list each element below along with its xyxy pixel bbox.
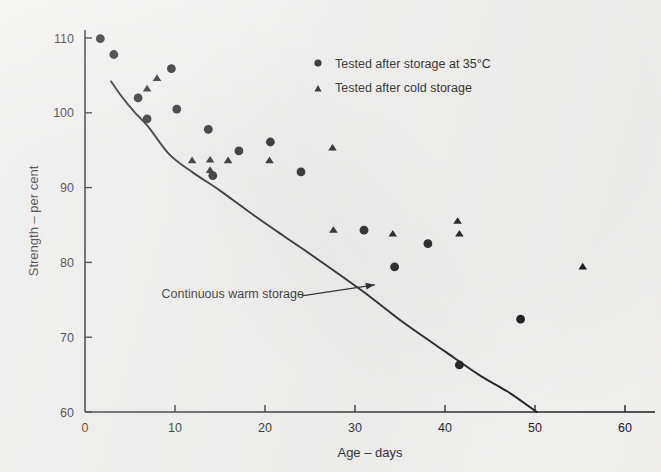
chart-figure: 60708090100110 0102030405060 Strength – … xyxy=(0,0,661,472)
legend-entry-warm-storage-label: Tested after storage at 35°C xyxy=(335,57,491,71)
curve-annotation-arrowhead xyxy=(365,283,374,290)
x-axis-tick-label: 10 xyxy=(168,421,182,435)
y-axis-tick-label: 60 xyxy=(60,406,74,420)
x-axis-tick-label: 60 xyxy=(618,421,632,435)
data-point-cold-storage xyxy=(389,230,398,237)
data-point-cold-storage xyxy=(143,85,152,92)
x-axis-tick-label: 40 xyxy=(438,421,452,435)
data-point-warm-storage xyxy=(424,239,433,248)
data-point-warm-storage xyxy=(143,114,152,123)
data-point-cold-storage xyxy=(328,144,337,151)
data-point-cold-storage xyxy=(188,157,197,164)
legend-entry-cold-storage-label: Tested after cold storage xyxy=(335,81,472,95)
data-point-cold-storage xyxy=(206,156,215,163)
continuous-warm-storage-curve xyxy=(111,81,537,412)
data-point-warm-storage xyxy=(109,50,118,59)
x-axis-title: Age – days xyxy=(337,445,403,460)
y-axis-tick-labels: 60708090100110 xyxy=(53,32,74,420)
y-axis-ticks xyxy=(85,38,92,412)
data-point-warm-storage xyxy=(297,168,306,177)
y-axis-tick-label: 110 xyxy=(54,32,74,46)
data-point-cold-storage xyxy=(578,263,587,270)
curve-annotation: Continuous warm storage xyxy=(162,283,375,301)
chart-canvas: 60708090100110 0102030405060 Strength – … xyxy=(0,0,661,472)
data-point-cold-storage xyxy=(329,226,338,233)
data-point-warm-storage xyxy=(96,34,105,43)
data-point-cold-storage xyxy=(224,157,233,164)
curve-annotation-label: Continuous warm storage xyxy=(162,287,304,301)
data-point-warm-storage xyxy=(172,105,181,114)
x-axis-tick-label: 50 xyxy=(528,421,542,435)
data-point-warm-storage xyxy=(390,263,399,272)
x-axis-tick-label: 0 xyxy=(82,421,89,435)
x-axis-tick-label: 30 xyxy=(348,421,362,435)
x-axis-tick-label: 20 xyxy=(258,421,272,435)
data-point-cold-storage xyxy=(153,74,162,81)
y-axis-tick-label: 90 xyxy=(60,181,74,195)
y-axis-tick-label: 70 xyxy=(60,331,74,345)
data-point-cold-storage xyxy=(455,230,464,237)
x-axis-tick-labels: 0102030405060 xyxy=(82,421,632,435)
data-point-warm-storage xyxy=(167,64,176,73)
curve-annotation-arrow xyxy=(302,285,375,296)
series-cold-storage-points xyxy=(143,74,587,269)
data-point-cold-storage xyxy=(206,166,215,173)
triangle-marker-icon xyxy=(314,85,321,92)
y-axis-tick-label: 100 xyxy=(53,106,74,120)
circle-marker-icon xyxy=(314,59,321,66)
y-axis-tick-label: 80 xyxy=(60,256,74,270)
data-point-cold-storage xyxy=(265,157,274,164)
data-point-warm-storage xyxy=(134,93,143,102)
data-point-warm-storage xyxy=(235,147,244,156)
data-point-cold-storage xyxy=(453,217,462,224)
data-point-warm-storage xyxy=(455,361,464,370)
data-point-warm-storage xyxy=(516,315,525,324)
x-axis-ticks xyxy=(175,405,625,412)
legend: Tested after storage at 35°C Tested afte… xyxy=(314,57,490,96)
data-point-warm-storage xyxy=(266,138,275,147)
data-point-warm-storage xyxy=(360,226,369,235)
data-point-warm-storage xyxy=(204,125,213,134)
y-axis-title: Strength – per cent xyxy=(26,165,41,276)
